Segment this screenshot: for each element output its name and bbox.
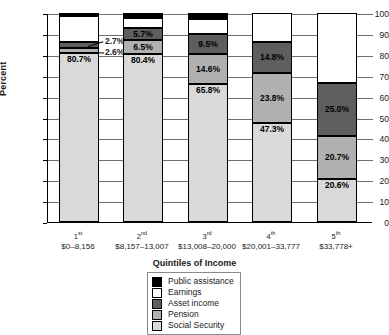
legend-swatch-icon	[152, 288, 162, 298]
bar-segment-earnings	[252, 13, 292, 42]
plot-area: 80.7%80.4%6.5%5.7%65.8%14.6%9.5%47.3%23.…	[47, 14, 372, 223]
quintile-range: $33,778+	[291, 242, 381, 252]
legend-item: Public assistance	[152, 276, 234, 287]
legend-item: Pension	[152, 309, 234, 320]
legend-label: Public assistance	[168, 277, 234, 286]
x-axis-label-quintile-5: 5th$33,778+	[291, 228, 381, 252]
bar-segment-asset-income: 9.5%	[188, 34, 228, 54]
legend-swatch-icon	[152, 310, 162, 320]
legend-item: Earnings	[152, 287, 234, 298]
x-axis-title: Quintiles of Income	[0, 258, 389, 268]
bar-segment-public-assistance	[59, 13, 99, 16]
legend-label: Earnings	[168, 288, 202, 297]
segment-value-label: 80.4%	[131, 56, 155, 65]
bar-segment-pension: 14.6%	[188, 54, 228, 85]
legend-label: Asset income	[168, 299, 219, 308]
legend-item: Social Security	[152, 320, 234, 331]
legend-item: Asset income	[152, 298, 234, 309]
callout-pension: 2.6%	[105, 47, 124, 57]
legend-label: Social Security	[168, 321, 224, 330]
segment-value-label: 9.5%	[198, 40, 217, 49]
segment-value-label: 20.6%	[325, 181, 349, 190]
segment-value-label: 65.8%	[196, 86, 220, 95]
segment-value-label: 14.8%	[260, 53, 284, 62]
bar-segment-social-security: 65.8%	[188, 84, 228, 222]
bar-segment-earnings	[59, 16, 99, 42]
bar-segment-asset-income: 25.0%	[317, 83, 357, 135]
segment-value-label: 5.7%	[133, 30, 152, 39]
y-axis-tick-mark	[43, 223, 47, 224]
bar-quintile-3: 65.8%14.6%9.5%	[188, 13, 228, 222]
bar-segment-pension: 23.8%	[252, 73, 292, 123]
segment-value-label: 80.7%	[67, 55, 91, 64]
segment-value-label: 47.3%	[260, 125, 284, 134]
bar-segment-public-assistance	[123, 13, 163, 18]
bar-segment-social-security: 47.3%	[252, 123, 292, 222]
bar-segment-earnings	[188, 19, 228, 34]
bar-segment-asset-income: 5.7%	[123, 28, 163, 40]
legend-swatch-icon	[152, 299, 162, 309]
bar-segment-social-security: 80.7%	[59, 53, 99, 222]
legend-swatch-icon	[152, 277, 162, 287]
bar-segment-social-security: 80.4%	[123, 54, 163, 222]
bar-segment-pension: 20.7%	[317, 136, 357, 179]
bar-quintile-5: 20.6%20.7%25.0%	[317, 13, 357, 222]
segment-value-label: 14.6%	[196, 65, 220, 74]
bar-segment-earnings	[317, 13, 357, 83]
segment-value-label: 23.8%	[260, 94, 284, 103]
bar-segment-public-assistance	[188, 13, 228, 19]
bar-segment-earnings	[123, 18, 163, 29]
segment-value-label: 6.5%	[133, 43, 152, 52]
bar-segment-pension: 6.5%	[123, 40, 163, 54]
legend-label: Pension	[168, 310, 199, 319]
bar-segment-asset-income: 14.8%	[252, 42, 292, 73]
legend-swatch-icon	[152, 321, 162, 331]
bar-quintile-2: 80.4%6.5%5.7%	[123, 13, 163, 222]
bar-quintile-4: 47.3%23.8%14.8%	[252, 13, 292, 222]
bar-segment-social-security: 20.6%	[317, 179, 357, 222]
legend: Public assistanceEarningsAsset incomePen…	[147, 272, 241, 335]
callout-asset-income: 2.7%	[105, 36, 124, 46]
y-axis-title: Percent	[0, 16, 8, 96]
segment-value-label: 20.7%	[325, 153, 349, 162]
callout-leader-line	[88, 52, 104, 53]
segment-value-label: 25.0%	[325, 105, 349, 114]
quintile-ordinal: 5th	[291, 228, 381, 242]
